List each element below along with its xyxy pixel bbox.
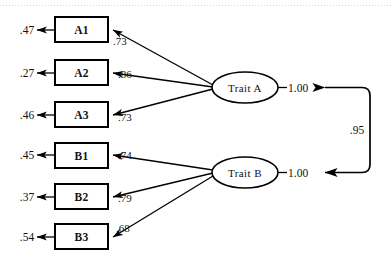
loading-value-b2: .79 xyxy=(118,192,132,204)
indicator-label-b2: B2 xyxy=(74,191,88,203)
residual-value-b2: .37 xyxy=(20,191,35,203)
loading-value-b1: .74 xyxy=(118,149,132,161)
loading-value-a1: .73 xyxy=(113,35,127,47)
latent-label-trait-b: Trait B xyxy=(228,167,262,179)
residual-value-b3: .54 xyxy=(20,231,35,243)
path-diagram-svg: A1 A2 A3 B1 B2 B3 .47 .27 .46 .45 .37 .5… xyxy=(0,0,391,258)
path-diagram-canvas: A1 A2 A3 B1 B2 B3 .47 .27 .46 .45 .37 .5… xyxy=(0,0,391,258)
loading-value-a3: .73 xyxy=(118,111,132,123)
indicator-label-a2: A2 xyxy=(74,67,89,79)
indicator-label-b3: B3 xyxy=(74,231,88,243)
residual-value-a2: .27 xyxy=(20,67,35,79)
correlation-value: .95 xyxy=(350,124,365,136)
latent-label-trait-a: Trait A xyxy=(228,82,262,94)
indicator-label-a1: A1 xyxy=(74,24,89,36)
loading-value-a2: .86 xyxy=(118,68,132,80)
loading-value-b3: .68 xyxy=(116,222,130,234)
residual-value-b1: .45 xyxy=(20,149,35,161)
variance-value-trait-a: 1.00 xyxy=(288,82,308,94)
indicator-label-a3: A3 xyxy=(74,109,89,121)
residual-value-a3: .46 xyxy=(20,109,35,121)
residual-value-a1: .47 xyxy=(20,24,35,36)
indicator-label-b1: B1 xyxy=(74,150,88,162)
variance-value-trait-b: 1.00 xyxy=(288,167,308,179)
